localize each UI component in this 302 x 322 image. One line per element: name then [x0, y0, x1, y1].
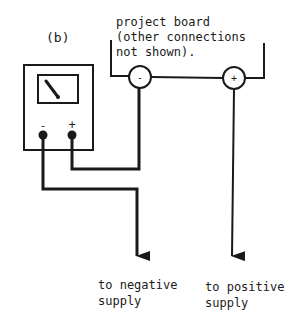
svg-text:+: + [231, 73, 237, 84]
project-board-line3: not shown). [116, 45, 195, 59]
project-board-line2: (other connections [116, 30, 246, 44]
positive-supply-label: to positive supply [205, 280, 284, 310]
meter-body [24, 65, 93, 150]
project-board-line1: project board [116, 15, 210, 29]
svg-text:to positive: to positive [205, 280, 284, 294]
svg-text:supply: supply [98, 294, 141, 308]
circuit-diagram: (b) project board (other connections not… [0, 0, 302, 322]
meter: - + [24, 65, 93, 150]
wire-meter-positive-to-board-negative [72, 88, 139, 169]
meter-negative-label: - [40, 119, 47, 132]
project-board-label: project board (other connections not sho… [116, 15, 246, 59]
svg-text:supply: supply [205, 296, 248, 310]
board-positive-terminal: + [223, 67, 245, 89]
meter-needle-icon [46, 81, 58, 97]
wire-meter-negative-to-negative-supply [43, 135, 137, 256]
wire-board-positive-to-positive-supply [232, 89, 234, 256]
svg-text:-: - [137, 72, 143, 83]
board-negative-terminal: - [129, 66, 151, 88]
wires [43, 88, 139, 256]
figure-label: (b) [46, 30, 69, 45]
svg-text:to negative: to negative [98, 278, 177, 292]
negative-supply-label: to negative supply [98, 278, 177, 308]
meter-positive-label: + [68, 118, 75, 132]
